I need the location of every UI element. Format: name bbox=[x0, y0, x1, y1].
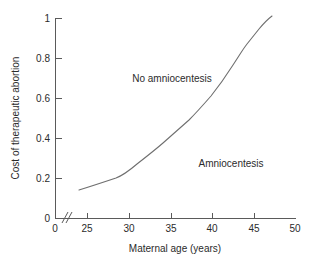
region-label-amniocentesis: Amniocentesis bbox=[198, 158, 263, 169]
x-tick-label-45: 45 bbox=[248, 223, 260, 234]
y-tick-label-0-2: 0.2 bbox=[36, 173, 50, 184]
x-tick-label-0: 0 bbox=[52, 223, 58, 234]
x-tick-label-25: 25 bbox=[81, 223, 93, 234]
y-axis-ticks bbox=[56, 19, 62, 219]
x-axis-ticks bbox=[88, 213, 255, 219]
y-tick-label-0-8: 0.8 bbox=[36, 53, 50, 64]
x-tick-label-40: 40 bbox=[206, 223, 218, 234]
chart-plot-area: 0 0.2 0.4 0.6 0.8 1 0 25 30 35 40 45 50 … bbox=[0, 0, 312, 269]
x-axis-title: Maternal age (years) bbox=[129, 243, 221, 254]
y-tick-label-0: 0 bbox=[44, 213, 50, 224]
y-tick-label-0-4: 0.4 bbox=[36, 133, 50, 144]
x-tick-label-35: 35 bbox=[165, 223, 177, 234]
chart-figure: 0 0.2 0.4 0.6 0.8 1 0 25 30 35 40 45 50 … bbox=[0, 0, 312, 269]
x-tick-label-30: 30 bbox=[123, 223, 135, 234]
x-tick-label-50: 50 bbox=[289, 223, 301, 234]
y-axis-title: Cost of therapeutic abortion bbox=[10, 57, 21, 180]
x-axis-break-icon bbox=[62, 212, 72, 223]
y-tick-label-1: 1 bbox=[44, 13, 50, 24]
y-tick-label-0-6: 0.6 bbox=[36, 93, 50, 104]
region-label-no-amniocentesis: No amniocentesis bbox=[132, 73, 211, 84]
